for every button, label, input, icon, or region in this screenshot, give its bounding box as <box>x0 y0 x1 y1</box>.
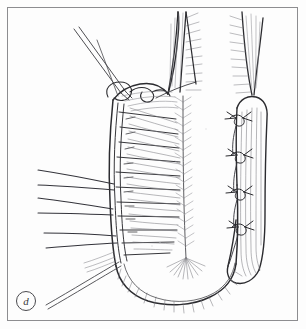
needle-holder-instrument <box>74 27 132 100</box>
midline-raphe-line <box>183 96 186 258</box>
figure-panel: d <box>0 0 306 329</box>
distal-tip-inner-contour <box>124 263 235 301</box>
lower-left-edge-shading <box>84 252 116 272</box>
body-hatching-left <box>127 108 180 250</box>
panel-label: d <box>16 291 38 313</box>
flap-b-hatch-fan <box>230 16 251 93</box>
interrupted-knot-suture <box>225 112 254 235</box>
surgical-illustration <box>0 0 306 329</box>
distal-tip-hatching <box>118 269 242 313</box>
flap-b-feathering <box>246 14 260 90</box>
retracted-suture-thread <box>38 170 117 248</box>
raphe-terminal-burst <box>167 258 205 279</box>
flap-separation-line <box>186 12 196 84</box>
panel-label-text: d <box>16 291 36 311</box>
retracted-suture-thread <box>46 262 121 309</box>
